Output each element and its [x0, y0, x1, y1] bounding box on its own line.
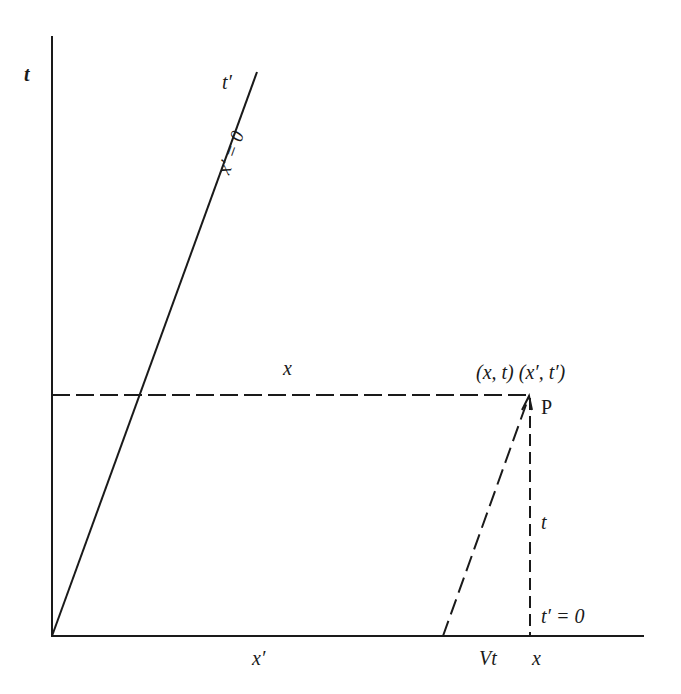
- x-bottom-label: x: [532, 648, 541, 668]
- t-prime-zero-label: t′ = 0: [541, 606, 584, 626]
- horizontal-x-label: x: [283, 358, 292, 378]
- vt-label: Vt: [479, 648, 497, 668]
- t-axis-label: t: [24, 64, 30, 84]
- event-p-label: P: [541, 397, 552, 417]
- vertical-t-label: t: [541, 512, 547, 532]
- x-prime-axis-label: x′: [252, 648, 265, 668]
- spacetime-diagram: [0, 0, 681, 694]
- event-coordinates-label: (x, t) (x′, t′): [476, 362, 565, 382]
- slanted-dashed-line: [443, 402, 527, 636]
- t-prime-label: t′: [222, 72, 232, 92]
